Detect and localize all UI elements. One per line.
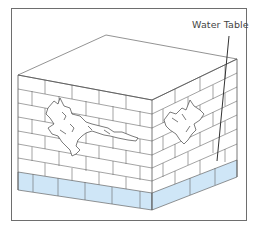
crack-right [164,100,204,144]
brick-foundation-diagram [0,0,259,235]
water-band-right [152,160,237,210]
water-table-leader-line [217,36,229,161]
crack-left [46,98,138,156]
top-face [18,35,237,100]
water-table-label: Water Table [192,19,249,30]
